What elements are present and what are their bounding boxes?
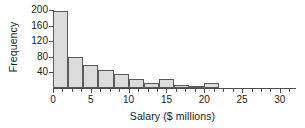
x-tick-mark-15 [166, 89, 167, 93]
x-tick-mark-minor [138, 89, 139, 92]
y-tick-label-80: 80 [18, 52, 48, 62]
x-tick-mark-minor [119, 89, 120, 92]
y-tick-label-40: 40 [18, 67, 48, 77]
x-tick-mark-minor [261, 89, 262, 92]
x-tick-mark-minor [289, 89, 290, 92]
x-tick-mark-minor [110, 89, 111, 92]
histogram-bar [98, 70, 113, 88]
x-tick-mark-minor [270, 89, 271, 92]
x-tick-mark-5 [91, 89, 92, 93]
histogram-bar [114, 74, 129, 88]
x-tick-mark-minor [62, 89, 63, 92]
x-tick-label-5: 5 [79, 94, 103, 105]
x-tick-mark-minor [185, 89, 186, 92]
x-tick-mark-minor [176, 89, 177, 92]
x-tick-mark-minor [252, 89, 253, 92]
x-tick-label-0: 0 [41, 94, 65, 105]
x-tick-label-20: 20 [192, 94, 216, 105]
y-axis-tick-labels: 4080120160200 [18, 0, 48, 128]
histogram-bar [129, 79, 144, 88]
x-tick-mark-25 [242, 89, 243, 93]
histogram-figure: Frequency Salary ($ millions) 4080120160… [0, 0, 305, 128]
x-tick-mark-minor [81, 89, 82, 92]
x-tick-mark-minor [214, 89, 215, 92]
histogram-bar [68, 57, 83, 88]
x-tick-label-15: 15 [154, 94, 178, 105]
x-tick-mark-minor [72, 89, 73, 92]
x-tick-label-10: 10 [117, 94, 141, 105]
x-tick-mark-minor [157, 89, 158, 92]
x-tick-mark-10 [129, 89, 130, 93]
y-tick-label-200: 200 [18, 5, 48, 15]
x-tick-label-30: 30 [268, 94, 292, 105]
x-tick-mark-minor [195, 89, 196, 92]
y-tick-label-120: 120 [18, 36, 48, 46]
histogram-bar [83, 65, 98, 88]
x-tick-mark-minor [100, 89, 101, 92]
histogram-bar [159, 79, 174, 88]
histogram-bar [174, 85, 189, 88]
histogram-bar [144, 83, 159, 88]
x-axis-tick-labels: 051015202530 [53, 88, 296, 118]
y-tick-label-160: 160 [18, 21, 48, 31]
histogram-bar [189, 86, 204, 88]
x-tick-mark-minor [233, 89, 234, 92]
x-tick-mark-minor [148, 89, 149, 92]
x-tick-mark-0 [53, 89, 54, 93]
histogram-bar [53, 11, 68, 88]
plot-area [53, 10, 295, 88]
x-tick-mark-minor [223, 89, 224, 92]
x-tick-mark-20 [204, 89, 205, 93]
x-tick-mark-30 [280, 89, 281, 93]
x-tick-label-25: 25 [230, 94, 254, 105]
